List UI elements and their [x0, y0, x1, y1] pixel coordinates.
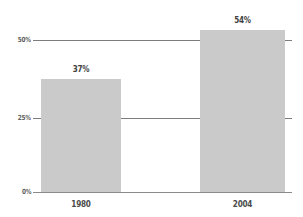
bar-value-label-1980: 37% — [47, 64, 115, 74]
bar-2004 — [200, 30, 285, 192]
plot-area: 50% 25% 0% 37% 54% 1980 2004 — [0, 0, 303, 217]
gridline-0-baseline — [33, 192, 292, 193]
x-axis-category-label-2004: 2004 — [206, 199, 279, 209]
y-axis-tick-label-25: 25% — [18, 114, 31, 122]
bar-value-label-2004: 54% — [206, 15, 278, 25]
bar-chart: 50% 25% 0% 37% 54% 1980 2004 — [0, 0, 303, 217]
y-axis-tick-label-50: 50% — [18, 36, 31, 44]
x-axis-category-label-1980: 1980 — [47, 199, 116, 209]
y-axis-tick-label-0: 0% — [22, 188, 31, 196]
bar-1980 — [41, 79, 121, 192]
